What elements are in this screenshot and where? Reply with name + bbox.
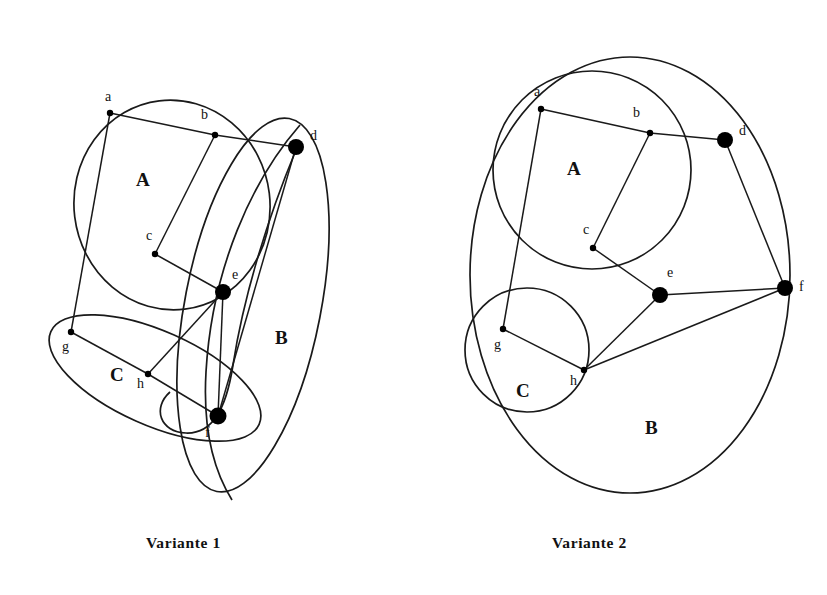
node-layer-v1: abcdefgh <box>62 89 317 440</box>
edge-h-f <box>148 374 218 416</box>
node-h[interactable] <box>581 367 587 373</box>
node-e[interactable] <box>215 284 231 300</box>
edge-d-f <box>725 140 785 288</box>
node-layer-v2: abcdefgh <box>494 84 804 388</box>
node-label-c: c <box>583 222 589 237</box>
variante-2-diagram: abcdefgh BAC <box>465 57 804 493</box>
edge-e-f <box>218 292 223 416</box>
edge-c-e <box>593 248 660 295</box>
edge-c-e <box>155 254 223 292</box>
edge-b-d <box>650 133 725 140</box>
node-b[interactable] <box>647 130 653 136</box>
node-label-f: f <box>205 425 210 440</box>
region-label-C: C <box>110 364 124 385</box>
node-label-e: e <box>232 267 238 282</box>
diagram-svg: abcdefgh ABC abcdefgh BAC <box>0 0 827 595</box>
node-label-c: c <box>146 228 152 243</box>
edge-e-h <box>148 292 223 374</box>
node-label-h: h <box>570 373 577 388</box>
node-label-g: g <box>62 339 69 354</box>
edge-b-d <box>215 135 296 147</box>
node-label-e: e <box>667 265 673 280</box>
region-label-B: B <box>275 327 288 348</box>
edge-layer-v1 <box>71 113 296 416</box>
node-label-a: a <box>534 84 541 99</box>
edge-b-c <box>593 133 650 248</box>
caption-variante-2: Variante 2 <box>552 534 627 552</box>
node-label-h: h <box>137 376 144 391</box>
node-label-f: f <box>799 279 804 294</box>
edge-e-f <box>660 288 785 295</box>
node-h[interactable] <box>145 371 151 377</box>
variante-1-diagram: abcdefgh ABC <box>32 89 356 505</box>
node-e[interactable] <box>652 287 668 303</box>
node-c[interactable] <box>152 251 158 257</box>
region-label-C: C <box>516 380 530 401</box>
edge-a-b <box>110 113 215 135</box>
node-d[interactable] <box>288 139 304 155</box>
node-g[interactable] <box>500 326 506 332</box>
region-label-layer-v1: ABC <box>110 169 288 385</box>
node-label-g: g <box>494 337 501 352</box>
node-f[interactable] <box>210 408 227 425</box>
region-label-B: B <box>645 417 658 438</box>
edge-g-h <box>503 329 584 370</box>
node-label-d: d <box>739 123 746 138</box>
node-label-a: a <box>105 89 112 104</box>
region-A-shape-v2 <box>493 71 691 269</box>
node-label-d: d <box>310 128 317 143</box>
node-a[interactable] <box>107 110 113 116</box>
node-d[interactable] <box>717 132 733 148</box>
node-f[interactable] <box>777 280 793 296</box>
edge-h-f <box>584 288 785 370</box>
region-label-A: A <box>136 169 150 190</box>
edge-e-h <box>584 295 660 370</box>
region-A-v2 <box>493 71 691 269</box>
node-label-b: b <box>633 105 640 120</box>
node-c[interactable] <box>590 245 596 251</box>
caption-variante-1: Variante 1 <box>146 534 221 552</box>
edge-layer-v2 <box>503 109 785 370</box>
region-B-v1 <box>150 106 356 505</box>
region-label-A: A <box>567 158 581 179</box>
figure-canvas: abcdefgh ABC abcdefgh BAC Variante 1 Var… <box>0 0 827 595</box>
edge-a-g <box>503 109 541 329</box>
edge-b-c <box>155 135 215 254</box>
node-a[interactable] <box>538 106 544 112</box>
region-B-shape-v1 <box>150 106 356 505</box>
node-g[interactable] <box>68 329 74 335</box>
node-label-b: b <box>201 107 208 122</box>
node-b[interactable] <box>212 132 218 138</box>
region-label-layer-v2: BAC <box>516 158 658 438</box>
